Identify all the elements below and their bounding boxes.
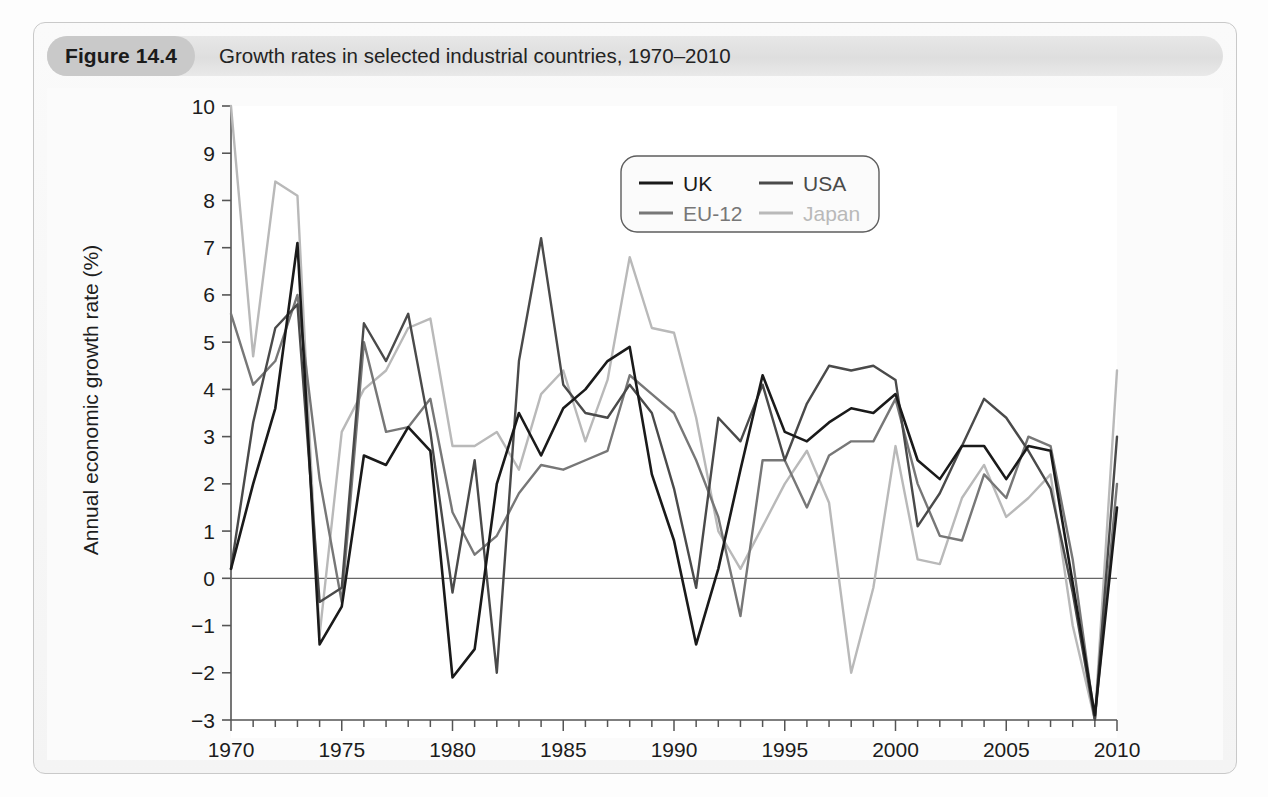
legend-label-eu12: EU-12 (683, 202, 743, 225)
y-tick-label: 0 (203, 567, 215, 590)
y-tick-label: −2 (191, 661, 215, 684)
legend-label-usa: USA (803, 172, 846, 195)
x-tick-label: 2010 (1094, 738, 1141, 760)
x-tick-label: 1970 (208, 738, 255, 760)
y-tick-label: 6 (203, 283, 215, 306)
x-tick-label: 1980 (429, 738, 476, 760)
figure-caption-bar: Figure 14.4 Growth rates in selected ind… (47, 36, 1223, 76)
y-tick-label: 8 (203, 189, 215, 212)
figure-title: Growth rates in selected industrial coun… (219, 44, 731, 68)
y-tick-label: 7 (203, 236, 215, 259)
x-tick-label: 1990 (651, 738, 698, 760)
x-tick-label: 1985 (540, 738, 587, 760)
x-tick-label: 1975 (318, 738, 365, 760)
y-tick-label: 4 (203, 378, 215, 401)
y-tick-label: −3 (191, 709, 215, 732)
legend-label-japan: Japan (803, 202, 860, 225)
x-tick-label: 2000 (872, 738, 919, 760)
line-chart: 109876543210−1−2−31970197519801985199019… (47, 88, 1223, 760)
y-tick-label: 3 (203, 425, 215, 448)
y-tick-label: 1 (203, 520, 215, 543)
x-tick-label: 2005 (983, 738, 1030, 760)
x-tick-label: 1995 (761, 738, 808, 760)
y-tick-label: −1 (191, 614, 215, 637)
y-tick-label: 9 (203, 142, 215, 165)
legend-label-uk: UK (683, 172, 712, 195)
chart-area: Annual economic growth rate (%) 10987654… (47, 88, 1223, 760)
series-line-uk (231, 243, 1117, 715)
series-line-usa (231, 238, 1117, 720)
y-tick-label: 2 (203, 472, 215, 495)
figure-page: Figure 14.4 Growth rates in selected ind… (0, 0, 1268, 797)
y-tick-label: 10 (192, 95, 215, 118)
figure-number-badge: Figure 14.4 (47, 36, 195, 76)
y-tick-label: 5 (203, 331, 215, 354)
series-line-eu12 (231, 295, 1117, 720)
